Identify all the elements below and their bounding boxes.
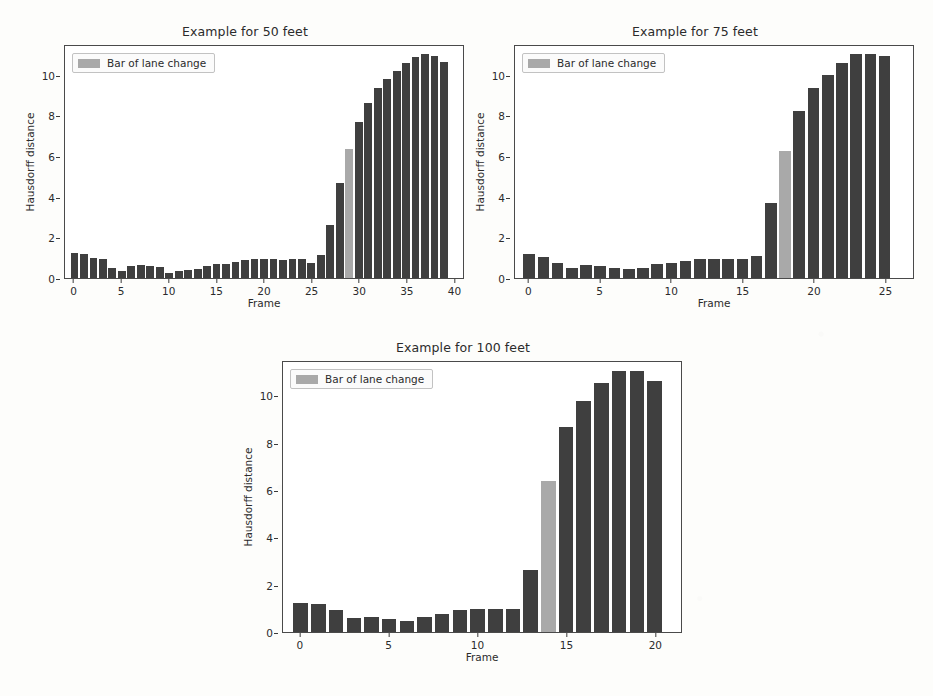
bar [393,71,401,278]
y-axis-label: Hausdorff distance [22,45,38,279]
bar-lane-change [345,149,353,278]
bar [609,268,621,278]
y-tick-label: 10 [42,70,55,82]
y-tick-label: 0 [48,273,55,285]
axes-box: Bar of lane change [64,45,464,279]
legend: Bar of lane change [290,369,433,389]
x-tick-label: 15 [560,639,573,651]
bar [865,54,877,278]
bar [326,225,334,278]
x-tick-label: 25 [879,285,892,297]
bar [751,256,763,278]
bar [203,266,211,279]
x-tick-label: 10 [471,639,484,651]
y-tick-label: 8 [48,110,55,122]
legend-swatch-lane-change-icon [528,59,550,68]
bar [822,75,834,278]
x-tick: 40 [448,279,461,297]
bar [165,273,173,278]
y-tick-label: 2 [48,232,55,244]
x-tick: 0 [525,279,532,297]
bar [355,122,363,278]
bar [146,266,154,278]
x-tick-mark [742,279,743,283]
bar-series [65,46,463,278]
x-tick: 15 [210,279,223,297]
bar [374,88,382,278]
bar [118,271,126,278]
bar [127,266,135,278]
bar [293,603,308,632]
bar [708,259,720,278]
bar [251,259,259,278]
y-tick-label: 0 [498,273,505,285]
bar [222,264,230,278]
bar [737,259,749,278]
x-tick-mark [528,279,529,283]
bar [612,371,627,632]
bar-lane-change [541,481,556,632]
bar [576,401,591,632]
y-tick-label: 10 [492,70,505,82]
chart-panel-100-feet: Example for 100 feet Hausdorff distance … [238,340,688,688]
x-tick: 0 [70,279,77,297]
bar [402,63,410,278]
x-tick-mark [814,279,815,283]
legend-label: Bar of lane change [325,373,424,385]
bar [71,253,79,278]
x-tick-label: 15 [210,285,223,297]
bar-lane-change [779,151,791,278]
x-tick-label: 5 [385,639,392,651]
x-axis-label: Frame [64,297,464,309]
bar [194,269,202,278]
y-tick-label: 6 [266,485,273,497]
legend-swatch-lane-change-icon [296,375,318,384]
x-tick-mark [359,279,360,283]
bar [137,265,145,278]
legend-swatch-lane-change-icon [78,59,100,68]
bar [289,259,297,278]
chart-panel-75-feet: Example for 75 feet Hausdorff distance 0… [470,24,920,334]
x-tick-label: 5 [118,285,125,297]
x-tick-label: 15 [736,285,749,297]
bar [90,258,98,278]
bar [400,621,415,632]
y-tick-label: 4 [266,532,273,544]
bar [594,266,606,278]
bar [80,254,88,278]
y-tick-label: 6 [48,151,55,163]
bar [647,381,662,632]
x-axis-label: Frame [514,297,914,309]
bar [793,111,805,278]
bar [488,609,503,632]
bar [666,263,678,278]
x-tick: 5 [596,279,603,297]
bar [260,259,268,278]
bar [680,261,692,278]
bar [336,183,344,278]
plot-area: Hausdorff distance 0246810 Bar of lane c… [238,361,688,667]
y-tick-label: 8 [498,110,505,122]
bar [382,619,397,632]
bar [241,260,249,278]
bar [347,618,362,632]
plot-area: Hausdorff distance 0246810 Bar of lane c… [470,45,920,313]
x-tick: 25 [879,279,892,297]
bar [435,614,450,632]
bar [765,203,777,278]
x-tick: 0 [296,633,303,651]
x-tick-mark [406,279,407,283]
x-tick-label: 25 [305,285,318,297]
bar [694,259,706,278]
bar [431,56,439,278]
chart-title: Example for 100 feet [238,340,688,356]
x-tick-mark [671,279,672,283]
bar [566,268,578,278]
x-tick-label: 5 [596,285,603,297]
legend-label: Bar of lane change [107,57,206,69]
x-tick-mark [885,279,886,283]
y-tick-label: 0 [266,627,273,639]
x-tick-mark [121,279,122,283]
bar [412,57,420,278]
x-tick: 20 [807,279,820,297]
